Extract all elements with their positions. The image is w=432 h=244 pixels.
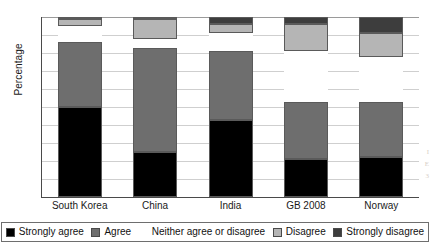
scan-artifact: 3 [426,172,430,180]
legend-item-strongly-disagree[interactable]: Strongly disagree [333,227,424,237]
legend-label: Disagree [286,227,326,237]
bar-segment-neither-agree-or-disagree[interactable] [58,26,102,42]
bar-segment-neither-agree-or-disagree[interactable] [284,51,328,101]
bar-segment-strongly-disagree[interactable] [133,17,177,19]
bar-segment-strongly-agree[interactable] [359,157,403,197]
legend-swatch-icon [273,228,282,237]
legend-item-neither-agree-or-disagree[interactable]: Neither agree or disagree [139,227,265,237]
bar-segment-strongly-disagree[interactable] [359,17,403,33]
plot-area: 0102030405060708090100 South KoreaChinaI… [41,17,419,198]
bar-segment-agree[interactable] [58,42,102,107]
chart-legend: Strongly agreeAgreeNeither agree or disa… [1,222,429,242]
bar-segment-neither-agree-or-disagree[interactable] [133,39,177,48]
bar-segment-agree[interactable] [359,102,403,158]
bar-segment-disagree[interactable] [284,24,328,51]
legend-label: Strongly disagree [346,227,424,237]
bar-segment-disagree[interactable] [133,19,177,39]
legend-label: Neither agree or disagree [152,227,265,237]
legend-item-disagree[interactable]: Disagree [273,227,326,237]
y-axis-title: Percentage [13,20,24,120]
bar-segment-strongly-agree[interactable] [133,152,177,197]
legend-label: Strongly agree [19,227,84,237]
bar-segment-disagree[interactable] [359,33,403,56]
bar-segment-agree[interactable] [284,102,328,160]
legend-swatch-icon [91,228,100,237]
legend-swatch-icon [6,228,15,237]
bar-segment-strongly-agree[interactable] [284,159,328,197]
bar-segment-neither-agree-or-disagree[interactable] [209,33,253,51]
bar-segment-strongly-agree[interactable] [209,120,253,197]
legend-swatch-icon [333,228,342,237]
bar-segment-strongly-disagree[interactable] [58,17,102,19]
bar-segment-strongly-disagree[interactable] [209,17,253,24]
legend-item-strongly-agree[interactable]: Strongly agree [6,227,84,237]
legend-item-agree[interactable]: Agree [91,227,131,237]
scan-artifact: I [427,148,429,156]
bar-segment-neither-agree-or-disagree[interactable] [359,57,403,102]
bar-segment-disagree[interactable] [209,24,253,33]
bar-segment-agree[interactable] [209,51,253,119]
bar-segment-disagree[interactable] [58,19,102,26]
bar-segment-agree[interactable] [133,48,177,152]
bar-segment-strongly-disagree[interactable] [284,17,328,24]
bar-segment-strongly-agree[interactable] [58,107,102,197]
x-tick-norway: Norway [326,201,432,211]
legend-label: Agree [104,227,131,237]
scan-artifact: E [425,160,429,168]
legend-swatch-icon [139,228,148,237]
stacked-bar-chart: Percentage 0102030405060708090100 South … [0,0,432,244]
